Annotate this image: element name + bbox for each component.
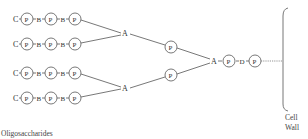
cell-wall-label-1: Cell [285,113,298,122]
b-label: B [37,70,42,78]
oligosaccharide-diagram: C P B P B P C P B P B P C P B [0,0,308,139]
chain-c-label: C [13,69,18,78]
junction-a-lower: A [122,84,128,93]
cell-wall-label-2: Wall [285,123,299,132]
p-label: P [49,41,53,49]
b-label: B [37,41,42,49]
p-label: P [25,95,29,103]
b-label: B [37,95,42,103]
p-label: P [227,58,231,66]
p-label: P [49,95,53,103]
b-label: B [37,16,42,24]
b-label: B [61,16,66,24]
chain-c-label: C [13,15,18,24]
chain-row-4: C P B P B P [13,92,81,104]
chain-row-2: C P B P B P [13,38,81,50]
b-label: B [61,95,66,103]
chain-c-label: C [13,94,18,103]
chain-row-1: C P B P B P [13,13,81,25]
p-label: P [73,16,77,24]
oligosaccharides-caption: Oligosaccharides [1,129,53,138]
b-label: B [61,41,66,49]
stem-d-label: D [240,58,245,66]
p-label: P [253,58,257,66]
p-label: P [49,70,53,78]
p-label: P [25,16,29,24]
p-label: P [73,41,77,49]
b-label: B [61,70,66,78]
p-label: P [169,44,173,52]
chain-c-label: C [13,40,18,49]
cell-wall-bracket [283,8,288,111]
p-label: P [169,72,173,80]
p-label: P [73,95,77,103]
chain-row-3: C P B P B P [13,67,81,79]
p-label: P [25,41,29,49]
p-label: P [49,16,53,24]
p-label: P [73,70,77,78]
p-label: P [25,70,29,78]
stem-a-label: A [211,57,217,66]
junction-a-upper: A [122,29,128,38]
